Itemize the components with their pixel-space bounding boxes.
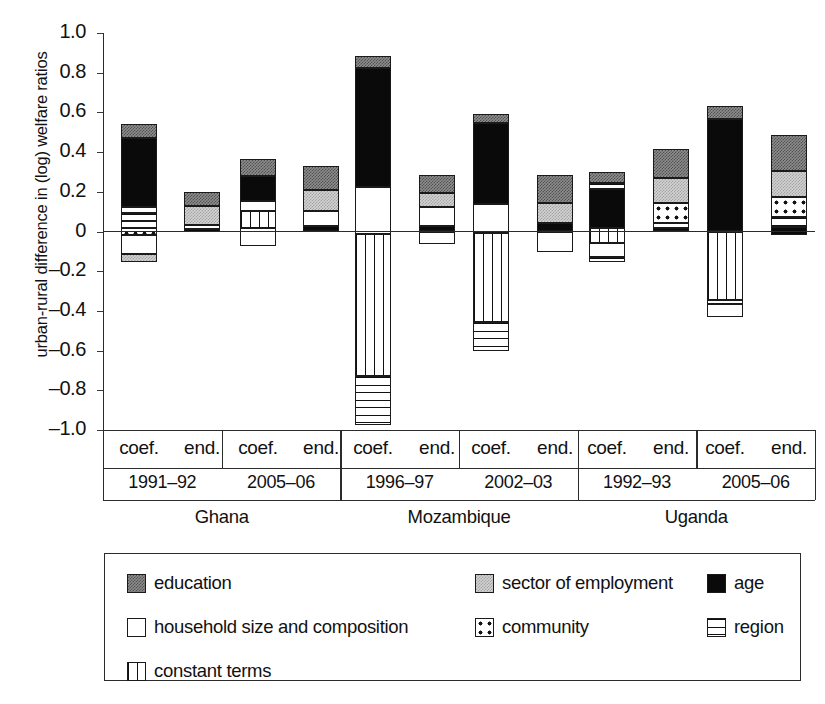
bar-segment-education [707, 106, 743, 119]
bar-segment-household-size-and-composition [589, 243, 625, 257]
bar-segment-community [653, 203, 689, 223]
legend-label: sector of employment [502, 572, 673, 594]
legend-label: age [734, 572, 764, 594]
bar-segment-region [473, 322, 509, 351]
bar-segment-age [121, 138, 157, 206]
axis-label-decomposition-coef: coef. [337, 437, 409, 459]
legend-label: household size and composition [154, 616, 408, 638]
legend-swatch-sector-icon [475, 574, 494, 593]
bar-segment-region [589, 257, 625, 262]
axis-label-decomposition-coef: coef. [571, 437, 643, 459]
axis-label-period: 1996–97 [340, 472, 459, 493]
legend-label: region [734, 616, 784, 638]
bar-segment-age [589, 189, 625, 228]
y-axis-tick-label: –0.2 [28, 258, 86, 281]
bar-segment-age [240, 176, 276, 201]
bar-segment-household-size-and-composition [419, 207, 455, 226]
axis-label-period: 1991–92 [103, 472, 222, 493]
bar-segment-education [537, 175, 573, 203]
zero-baseline [103, 231, 815, 232]
bar-segment-constant-terms [707, 232, 743, 300]
legend-swatch-region-icon [707, 618, 726, 637]
bar-segment-education [184, 192, 220, 206]
axis-label-country: Uganda [578, 506, 815, 528]
bar-segment-household-size-and-composition [707, 304, 743, 317]
bar-segment-sector-of-employment [771, 171, 807, 197]
bar-segment-community [771, 197, 807, 217]
legend-swatch-household-icon [127, 618, 146, 637]
category-axis-rule [103, 468, 815, 469]
bar-segment-sector-of-employment [303, 190, 339, 211]
y-axis-tick-label: –0.8 [28, 377, 86, 400]
bar-segment-education [240, 159, 276, 176]
bar-segment-region [121, 213, 157, 221]
bar-segment-age [355, 68, 391, 187]
bar-segment-region [771, 217, 807, 227]
y-axis-tick-label: –1.0 [28, 417, 86, 440]
category-axis-table: coef.end.coef.end.coef.end.coef.end.coef… [103, 430, 815, 525]
legend: educationsector of employmentagehousehol… [104, 553, 801, 681]
axis-label-period: 2005–06 [222, 472, 341, 493]
bar-segment-education [473, 114, 509, 123]
bar-segment-constant-terms [240, 211, 276, 228]
bar-segment-education [303, 166, 339, 190]
bar-segment-household-size-and-composition [240, 201, 276, 211]
bar-segment-constant-terms [355, 234, 391, 376]
bar-segment-household-size-and-composition [121, 221, 157, 228]
axis-label-period: 1992–93 [578, 472, 697, 493]
legend-item-age: age [707, 572, 764, 594]
bar-segment-age [707, 119, 743, 231]
legend-swatch-age-icon [707, 574, 726, 593]
y-axis-tick-label: –0.6 [28, 338, 86, 361]
bar-segment-household-size-and-composition [303, 211, 339, 226]
legend-swatch-education-icon [127, 574, 146, 593]
axis-label-decomposition-coef: coef. [222, 437, 294, 459]
y-axis-tick-label: 0.8 [28, 60, 86, 83]
bar-segment-household-size-and-composition [419, 232, 455, 245]
legend-swatch-constant-icon [127, 662, 146, 681]
axis-label-decomposition-coef: coef. [103, 437, 175, 459]
legend-item-household: household size and composition [127, 616, 408, 638]
bar-segment-household-size-and-composition [121, 235, 157, 254]
bar-segment-education [653, 149, 689, 178]
bar-segment-education [419, 175, 455, 193]
bar-segment-sector-of-employment [653, 178, 689, 203]
y-axis-tick-label: –0.4 [28, 298, 86, 321]
bar-segment-education [771, 135, 807, 171]
bar-segment-sector-of-employment [419, 193, 455, 207]
legend-label: community [502, 616, 589, 638]
legend-item-education: education [127, 572, 232, 594]
bar-segment-education [589, 172, 625, 183]
legend-item-community: community [475, 616, 589, 638]
axis-label-period: 2002–03 [459, 472, 578, 493]
y-axis-tick-label: 0.6 [28, 99, 86, 122]
legend-item-constant: constant terms [127, 660, 271, 682]
bar-segment-education [355, 56, 391, 68]
y-axis-tick-label: 0 [28, 219, 86, 242]
bar-segment-sector-of-employment [121, 254, 157, 262]
bar-segment-household-size-and-composition [537, 232, 573, 253]
legend-item-region: region [707, 616, 784, 638]
axis-label-period: 2005–06 [696, 472, 815, 493]
y-axis-tick-label: 1.0 [28, 20, 86, 43]
bar-segment-sector-of-employment [537, 203, 573, 223]
bar-segment-constant-terms [589, 228, 625, 244]
legend-label: constant terms [154, 660, 271, 682]
bar-segment-age [473, 123, 509, 203]
legend-label: education [154, 572, 232, 594]
axis-label-decomposition-coef: coef. [689, 437, 761, 459]
legend-item-sector: sector of employment [475, 572, 673, 594]
category-axis-rule [103, 500, 815, 501]
y-axis-tick-label: 0.2 [28, 179, 86, 202]
axis-label-decomposition-coef: coef. [455, 437, 527, 459]
legend-swatch-community-icon [475, 618, 494, 637]
bar-segment-household-size-and-composition [355, 187, 391, 235]
axis-label-country: Ghana [103, 506, 340, 528]
axis-label-country: Mozambique [340, 506, 577, 528]
bar-segment-education [121, 124, 157, 138]
bar-segment-sector-of-employment [184, 206, 220, 225]
axis-label-decomposition-end: end. [753, 437, 825, 459]
bar-segment-household-size-and-composition [473, 204, 509, 234]
y-axis-tick-label: 0.4 [28, 139, 86, 162]
chart-figure: urban-rural difference in (log) welfare … [0, 0, 825, 704]
